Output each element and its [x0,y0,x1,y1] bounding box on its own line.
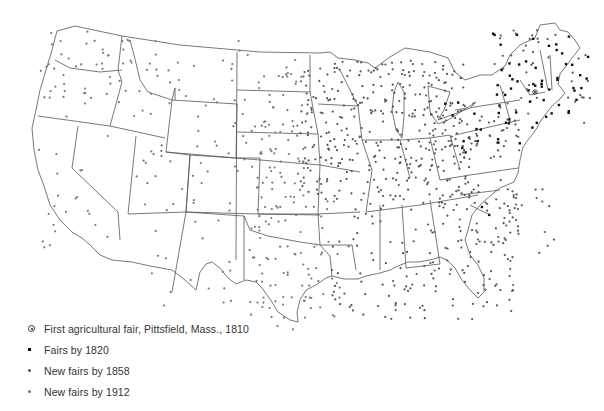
legend-item-first-fair: First agricultural fair, Pittsfield, Mas… [26,318,249,339]
legend-label: First agricultural fair, Pittsfield, Mas… [44,323,249,335]
mn-ia-mo-ar-la [310,55,360,270]
az-nm [172,212,244,292]
circled-dot-icon [26,325,44,332]
legend-item-1912: New fairs by 1912 [26,381,249,402]
wa-or-border [55,60,122,72]
ut-co [128,152,190,214]
mi-in-oh [400,120,520,180]
pa-ny [455,80,530,120]
legend: First agricultural fair, Pittsfield, Mas… [26,318,249,402]
legend-label: Fairs by 1820 [44,344,109,356]
first-fair-marker [533,90,537,94]
legend-label: New fairs by 1858 [44,365,130,377]
us-outline [32,23,580,322]
id-south [110,126,165,138]
ca-nv [72,126,120,240]
co-box [186,155,260,214]
or-ca-border [38,116,110,126]
legend-item-1820: Fairs by 1820 [26,339,249,360]
nd-sd-ne-ks [236,52,320,260]
legend-item-1858: New fairs by 1858 [26,360,249,381]
legend-label: New fairs by 1912 [44,386,130,398]
wy-box [166,100,237,158]
dot-icon [26,390,44,393]
nv-ut [128,136,136,214]
square-dot-icon [26,348,44,351]
dot-icon [26,369,44,372]
lake-erie-huron [428,86,476,124]
state-outlines [32,23,580,322]
